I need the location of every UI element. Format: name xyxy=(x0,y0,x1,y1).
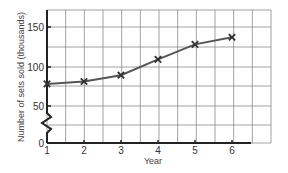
chart-canvas: 050100150123456 Year Number of sets sold… xyxy=(0,0,288,173)
y-tick-label: 50 xyxy=(33,101,45,112)
y-tick-label: 150 xyxy=(27,22,44,33)
y-tick-label: 100 xyxy=(27,62,44,73)
data-series xyxy=(44,34,235,87)
x-tick-label: 4 xyxy=(155,145,161,156)
y-axis-title: Number of sets sold (thousands) xyxy=(16,12,26,142)
x-axis-title: Year xyxy=(144,156,162,166)
x-tick-label: 2 xyxy=(81,145,87,156)
x-tick-label: 3 xyxy=(118,145,124,156)
x-tick-label: 1 xyxy=(44,145,50,156)
x-tick-label: 6 xyxy=(229,145,235,156)
grid-lines xyxy=(47,10,271,143)
x-tick-label: 5 xyxy=(192,145,198,156)
axes xyxy=(42,10,271,143)
series-line xyxy=(47,37,232,84)
line-chart: 050100150123456 Year Number of sets sold… xyxy=(0,0,288,173)
